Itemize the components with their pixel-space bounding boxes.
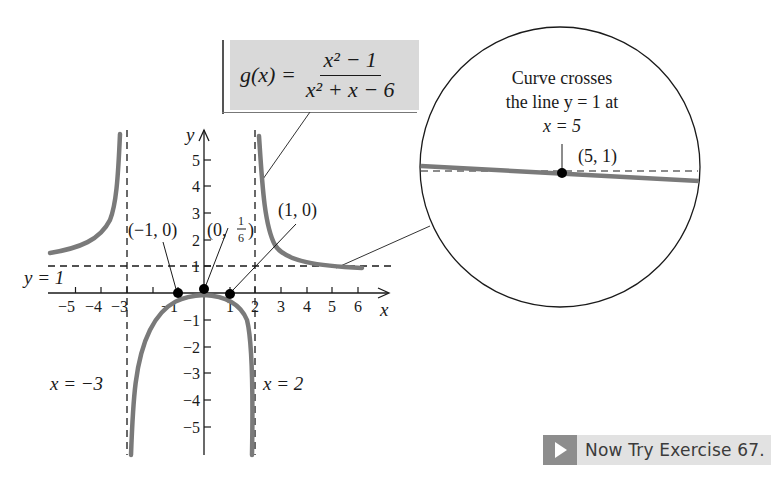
svg-text:6: 6 (354, 298, 362, 315)
x-tick-labels: −5 −4 −3 −1 1 2 3 4 5 6 (58, 298, 362, 315)
left-asymptote-label: x = −3 (49, 373, 103, 394)
inset-point-5-1 (557, 168, 567, 178)
svg-text:−5: −5 (183, 419, 200, 436)
right-asymptote-label: x = 2 (262, 373, 304, 394)
magnified-inset: Curve crosses the line y = 1 at x = 5 (5… (420, 27, 700, 307)
point-label-frac-num: 1 (238, 214, 244, 228)
svg-text:−1: −1 (183, 312, 200, 329)
function-curve (50, 134, 362, 455)
svg-text:4: 4 (192, 178, 200, 195)
svg-text:−5: −5 (58, 298, 75, 315)
svg-text:1: 1 (192, 258, 200, 275)
point-label-frac-den: 6 (238, 231, 244, 245)
svg-text:5: 5 (192, 152, 200, 169)
point-1-0 (225, 289, 235, 299)
magnify-leader-line (336, 226, 430, 268)
svg-text:−4: −4 (85, 298, 102, 315)
inset-caption-line2: the line y = 1 at (506, 92, 619, 112)
inset-caption-line3: x = 5 (542, 116, 581, 136)
x-axis-ticks (76, 287, 359, 293)
inset-caption-line1: Curve crosses (512, 68, 612, 88)
point-neg1-0 (173, 288, 183, 298)
play-arrow-icon (543, 435, 577, 465)
point-0-sixth (199, 284, 209, 294)
svg-text:4: 4 (303, 298, 311, 315)
point-leader-lines (163, 224, 296, 290)
svg-text:5: 5 (328, 298, 336, 315)
point-label-1-0: (1, 0) (278, 200, 317, 221)
curve-branch-left (50, 134, 120, 253)
point-label-0-sixth-prefix: (0, (207, 220, 227, 241)
y-axis-label: y (184, 124, 195, 145)
point-label-0-sixth-suffix: ) (248, 220, 254, 241)
now-try-exercise-label: Now Try Exercise 67. (585, 440, 765, 460)
formula-leader-line (263, 112, 310, 179)
now-try-exercise-banner[interactable]: Now Try Exercise 67. (543, 435, 771, 465)
svg-text:2: 2 (192, 232, 200, 249)
svg-text:−4: −4 (183, 392, 200, 409)
x-axis-label: x (379, 299, 389, 320)
svg-text:−3: −3 (183, 365, 200, 382)
svg-text:3: 3 (277, 298, 285, 315)
inset-point-label: (5, 1) (578, 146, 617, 167)
svg-text:−3: −3 (111, 298, 128, 315)
horizontal-asymptote-label: y = 1 (22, 267, 64, 288)
function-graph: −5 −4 −3 −1 1 2 3 4 5 6 x 5 4 3 2 1 −1 −… (0, 0, 775, 487)
svg-text:3: 3 (192, 205, 200, 222)
point-label-neg1-0: (−1, 0) (128, 220, 177, 241)
svg-text:2: 2 (251, 298, 259, 315)
svg-text:−2: −2 (183, 339, 200, 356)
